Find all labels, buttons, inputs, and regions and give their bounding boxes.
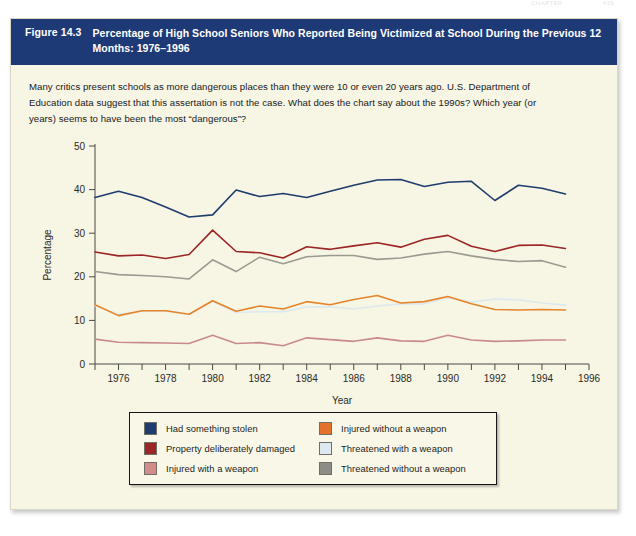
y-tick-label: 40 xyxy=(74,184,86,195)
figure-body: Many critics present schools as more dan… xyxy=(11,65,617,485)
legend-item-label: Threatened with a weapon xyxy=(341,443,453,454)
legend-item-label: Had something stolen xyxy=(166,423,258,434)
x-tick-label: 1992 xyxy=(484,373,507,384)
x-tick-label: 1978 xyxy=(154,373,177,384)
legend-swatch-icon xyxy=(144,442,157,455)
legend-item-label: Property deliberately damaged xyxy=(166,443,295,454)
y-axis-ticks: 01020304050 xyxy=(74,141,95,370)
running-head: CHAPTER 435 xyxy=(0,0,636,14)
legend-swatch-icon xyxy=(319,422,332,435)
series-line xyxy=(95,252,565,279)
x-axis-ticks: 1976197819801982198419861988199019921994… xyxy=(95,364,601,384)
figure-caption: Many critics present schools as more dan… xyxy=(29,79,549,126)
legend-item: Had something stolen xyxy=(144,422,309,435)
legend-item-label: Injured without a weapon xyxy=(341,423,446,434)
chart-legend: Had something stolen Property deliberate… xyxy=(129,412,497,485)
running-head-chapter: CHAPTER xyxy=(531,0,562,6)
legend-swatch-icon xyxy=(144,422,157,435)
x-tick-label: 1982 xyxy=(249,373,272,384)
x-tick-label: 1984 xyxy=(296,373,319,384)
x-tick-label: 1994 xyxy=(531,373,554,384)
figure-page-sheet: Figure 14.3 Percentage of High School Se… xyxy=(10,18,618,510)
y-tick-label: 10 xyxy=(74,315,86,326)
chart-canvas: 01020304050 1976197819801982198419861988… xyxy=(29,138,601,406)
figure-number: Figure 14.3 xyxy=(25,26,82,38)
legend-item: Injured with a weapon xyxy=(144,462,309,475)
legend-swatch-icon xyxy=(319,442,332,455)
y-axis-title: Percentage xyxy=(42,229,53,281)
x-tick-label: 1986 xyxy=(343,373,366,384)
y-tick-label: 50 xyxy=(74,141,86,152)
series-line xyxy=(95,180,565,217)
chart-series-group xyxy=(95,180,565,346)
y-tick-label: 20 xyxy=(74,271,86,282)
y-tick-label: 30 xyxy=(74,228,86,239)
line-chart: 01020304050 1976197819801982198419861988… xyxy=(29,138,601,406)
series-line xyxy=(95,230,565,258)
series-line xyxy=(95,298,565,315)
legend-item: Threatened without a weapon xyxy=(319,462,484,475)
legend-item-label: Threatened without a weapon xyxy=(341,463,466,474)
x-tick-label: 1976 xyxy=(107,373,130,384)
legend-item: Property deliberately damaged xyxy=(144,442,309,455)
x-tick-label: 1988 xyxy=(390,373,413,384)
x-tick-label: 1996 xyxy=(578,373,601,384)
legend-item: Injured without a weapon xyxy=(319,422,484,435)
figure-header-bar: Figure 14.3 Percentage of High School Se… xyxy=(11,19,617,65)
legend-swatch-icon xyxy=(319,462,332,475)
x-tick-label: 1990 xyxy=(437,373,460,384)
series-line xyxy=(95,335,565,345)
x-tick-label: 1980 xyxy=(201,373,224,384)
legend-item: Threatened with a weapon xyxy=(319,442,484,455)
running-head-page-number: 435 xyxy=(603,0,614,6)
figure-title: Percentage of High School Seniors Who Re… xyxy=(93,26,603,56)
legend-item-label: Injured with a weapon xyxy=(166,463,258,474)
x-axis-title: Year xyxy=(332,395,353,406)
y-tick-label: 0 xyxy=(79,359,85,370)
legend-swatch-icon xyxy=(144,462,157,475)
